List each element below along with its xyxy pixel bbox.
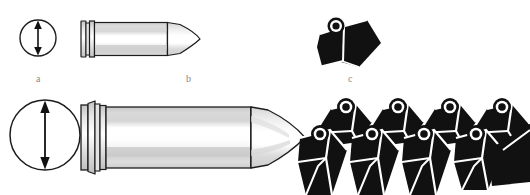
small-calibre-circle-group bbox=[20, 20, 56, 56]
element-array-group bbox=[298, 98, 530, 195]
element-ring-boss-inner bbox=[332, 22, 339, 29]
figure-artwork bbox=[0, 0, 530, 195]
small-cartridge-ogive-tip bbox=[168, 23, 201, 56]
large-cartridge-rim bbox=[81, 105, 88, 170]
small-cartridge-group bbox=[81, 21, 200, 57]
figure-label-a: a bbox=[36, 74, 41, 84]
small-cartridge-shadow-band-lower bbox=[96, 45, 167, 51]
large-cartridge-flange bbox=[88, 101, 95, 174]
figure-label-b: b bbox=[186, 74, 191, 84]
single-faceted-element-group bbox=[317, 18, 381, 68]
element-right-facet bbox=[341, 20, 381, 67]
large-calibre-circle-group bbox=[10, 100, 80, 170]
large-cartridge-head-band bbox=[100, 106, 106, 170]
technical-figure: a b c bbox=[0, 0, 530, 195]
large-cartridge-ogive-tip bbox=[251, 107, 305, 168]
large-cartridge-highlight-band-upper bbox=[107, 114, 250, 122]
small-cartridge-head-band bbox=[90, 21, 95, 57]
figure-label-c: c bbox=[348, 74, 353, 84]
large-cartridge-groove bbox=[95, 104, 100, 171]
small-cartridge-highlight-band-upper bbox=[96, 27, 167, 32]
large-cartridge-shadow-band-lower bbox=[107, 147, 250, 157]
small-cartridge-rim bbox=[81, 21, 86, 57]
large-cartridge-group bbox=[81, 101, 305, 174]
